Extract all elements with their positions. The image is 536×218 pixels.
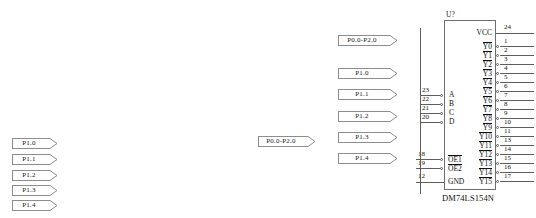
net-flag-label: P1.1 [13, 155, 50, 164]
inversion-bubble-icon [496, 72, 499, 75]
pin-name-text: Y7 [483, 105, 492, 114]
schematic-canvas: P1.0P1.1P1.2P1.3P1.4 P0.0-P2.0 P0.0-P2.0… [0, 0, 536, 218]
pin-number-24: 24 [504, 24, 511, 31]
pin-name-text: Y3 [483, 69, 492, 78]
pin-number-4: 4 [504, 65, 508, 72]
inversion-bubble-icon [496, 81, 499, 84]
ic-reference-designator[interactable]: U? [446, 10, 455, 19]
pin-name-y2: Y2 [466, 60, 492, 69]
net-flag-p1-3[interactable]: P1.3 [12, 185, 50, 196]
inversion-bubble-icon [496, 126, 499, 129]
inversion-bubble-icon [496, 63, 499, 66]
pin-name-y12: Y12 [466, 150, 492, 159]
inversion-bubble-icon [496, 117, 499, 120]
net-flag-arrow-icon [390, 68, 397, 79]
inversion-bubble-icon [496, 162, 499, 165]
pin-number-10: 10 [504, 119, 511, 126]
net-flag-arrow-icon [50, 200, 57, 211]
net-flag-p1-3[interactable]: P1.3 [338, 132, 390, 143]
pin-lead [500, 181, 534, 182]
pin-number-13: 13 [504, 137, 511, 144]
pin-name-y0: Y0 [466, 42, 492, 51]
net-flag-p1-2[interactable]: P1.2 [12, 170, 50, 181]
net-flag-arrow-icon [50, 154, 57, 165]
pin-name-text: OE1 [448, 155, 462, 164]
inversion-bubble-icon [496, 135, 499, 138]
inversion-bubble-icon [496, 171, 499, 174]
pin-number-17: 17 [504, 173, 511, 180]
pin-number-2: 2 [504, 47, 508, 54]
net-flag-label: P1.3 [13, 186, 50, 195]
net-flag-label: P0.0-P2.0 [259, 137, 308, 146]
net-flag-p1-1[interactable]: P1.1 [12, 154, 50, 165]
pin-number-3: 3 [504, 56, 508, 63]
net-flag-arrow-icon [50, 170, 57, 181]
inversion-bubble-icon [440, 103, 443, 106]
pin-number-20: 20 [422, 114, 429, 121]
pin-name-text: Y4 [483, 78, 492, 87]
pin-lead [420, 122, 440, 123]
pin-name-text: Y2 [483, 60, 492, 69]
net-flag-arrow-icon [390, 89, 397, 100]
inversion-bubble-icon [440, 112, 443, 115]
net-flag-p1-0[interactable]: P1.0 [12, 138, 50, 149]
net-flag-p1-2[interactable]: P1.2 [338, 111, 390, 122]
pin-number-9: 9 [504, 110, 508, 117]
pin-name-y14: Y14 [466, 168, 492, 177]
pin-name-y9: Y9 [466, 123, 492, 132]
bus-trunk-wire[interactable] [420, 28, 421, 194]
pin-lead [496, 33, 534, 34]
net-flag-p1-0[interactable]: P1.0 [338, 68, 390, 79]
pin-number-1: 1 [504, 38, 508, 45]
net-flag-arrow-icon [50, 185, 57, 196]
inversion-bubble-icon [496, 99, 499, 102]
pin-name-text: Y5 [483, 87, 492, 96]
net-flag-arrow-icon [390, 111, 397, 122]
pin-number-15: 15 [504, 155, 511, 162]
pin-name-text: Y15 [479, 177, 492, 186]
pin-name-oe2: OE2 [448, 164, 462, 173]
pin-name-text: A [449, 90, 454, 99]
pin-name-text: VCC [477, 28, 492, 37]
net-flag-label: P0.0-P2.0 [339, 36, 390, 45]
pin-name-text: Y0 [483, 42, 492, 51]
pin-name-y10: Y10 [466, 132, 492, 141]
pin-number-21: 21 [422, 105, 429, 112]
pin-name-y3: Y3 [466, 69, 492, 78]
inversion-bubble-icon [496, 144, 499, 147]
inversion-bubble-icon [440, 121, 443, 124]
net-flag-p1-4[interactable]: P1.4 [12, 200, 50, 211]
inversion-bubble-icon [496, 45, 499, 48]
pin-name-c: C [449, 109, 454, 117]
inversion-bubble-icon [496, 180, 499, 183]
pin-name-oe1: OE1 [448, 155, 462, 164]
pin-name-text: OE2 [448, 164, 462, 173]
net-flag-label: P1.2 [339, 112, 390, 121]
pin-name-text: Y9 [483, 123, 492, 132]
net-flag-label: P1.0 [339, 69, 390, 78]
net-flag-arrow-icon [390, 35, 397, 46]
net-flag-p0-0-p2-0[interactable]: P0.0-P2.0 [258, 136, 308, 147]
net-flag-p1-1[interactable]: P1.1 [338, 89, 390, 100]
net-flag-arrow-icon [390, 153, 397, 164]
inversion-bubble-icon [496, 54, 499, 57]
pin-name-d: D [449, 118, 454, 126]
net-flag-label: P1.1 [339, 90, 390, 99]
pin-number-5: 5 [504, 74, 508, 81]
pin-name-text: Y11 [479, 141, 492, 150]
pin-name-y15: Y15 [466, 177, 492, 186]
pin-name-y7: Y7 [466, 105, 492, 114]
pin-name-text: Y13 [479, 159, 492, 168]
net-flag-label: P1.2 [13, 171, 50, 180]
net-flag-label: P1.3 [339, 133, 390, 142]
net-flag-label: P1.0 [13, 139, 50, 148]
inversion-bubble-icon [440, 94, 443, 97]
net-flag-p1-4[interactable]: P1.4 [338, 153, 390, 164]
pin-number-11: 11 [504, 128, 511, 135]
pin-number-16: 16 [504, 164, 511, 171]
net-flag-p0-0-p2-0[interactable]: P0.0-P2.0 [338, 35, 390, 46]
inversion-bubble-icon [496, 108, 499, 111]
ic-part-number[interactable]: DM74LS154N [442, 193, 494, 203]
pin-number-14: 14 [504, 146, 511, 153]
pin-name-y5: Y5 [466, 87, 492, 96]
